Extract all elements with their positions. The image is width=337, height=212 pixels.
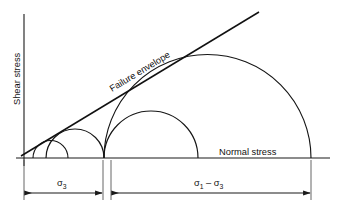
mohr-circle-3	[104, 111, 198, 158]
mohr-circle-figure: Shear stress Normal stress Failure envel…	[0, 0, 337, 212]
mohr-circle-2	[46, 129, 104, 158]
y-axis-label: Shear stress	[12, 52, 22, 105]
figure-canvas: Shear stress Normal stress Failure envel…	[0, 0, 337, 212]
dimension-label-sigma3: σ3	[57, 178, 67, 190]
dimension-label-sigma1-minus-sigma3: σ1 – σ3	[194, 178, 224, 190]
minus-sigma-glyph: – σ	[204, 178, 220, 188]
failure-envelope-label: Failure envelope	[108, 50, 172, 94]
sigma-subscript: 3	[63, 183, 67, 190]
sigma3-subscript: 3	[220, 183, 224, 190]
failure-envelope-line	[21, 12, 259, 156]
x-axis-label: Normal stress	[219, 147, 277, 157]
